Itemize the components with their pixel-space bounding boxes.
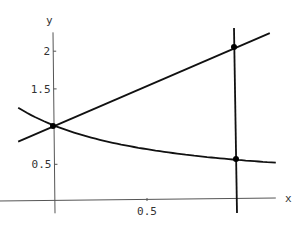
chart-svg: 0.50.51.52 x y bbox=[0, 0, 304, 226]
y-tick-label: 1.5 bbox=[31, 83, 51, 96]
y-tick-label: 0.5 bbox=[32, 158, 52, 171]
x-axis-line bbox=[0, 198, 276, 201]
axis-labels: x y bbox=[46, 14, 292, 205]
x-axis-label: x bbox=[285, 192, 292, 205]
vertical-line bbox=[234, 28, 237, 213]
y-axis-label: y bbox=[46, 14, 53, 27]
y-axis-line bbox=[53, 32, 55, 213]
x-tick-label: 0.5 bbox=[137, 205, 157, 218]
intersection-point bbox=[231, 44, 237, 50]
chart-container: 0.50.51.52 x y bbox=[0, 0, 304, 226]
intersection-point bbox=[233, 156, 239, 162]
decreasing-curve bbox=[18, 108, 276, 163]
y-tick-label: 2 bbox=[44, 45, 51, 58]
curves bbox=[18, 28, 276, 213]
intersection-point bbox=[50, 123, 56, 129]
intersection-points bbox=[50, 44, 239, 162]
